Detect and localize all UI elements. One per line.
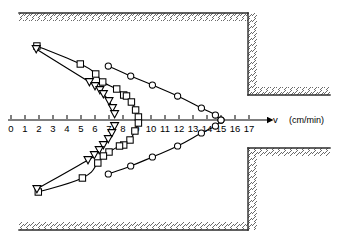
axis-tick-label: 6 (92, 123, 97, 134)
axis-tick-label: 4 (64, 123, 69, 134)
marker-square (93, 71, 99, 77)
marker-square (100, 153, 106, 159)
marker-circle (128, 163, 134, 169)
lower-shelf-hatch (248, 148, 330, 156)
marker-triangle-down (111, 123, 119, 130)
axis-symbol-v: v (273, 114, 278, 125)
marker-circle (149, 154, 155, 160)
marker-circle (105, 63, 111, 69)
right-lower-wall-hatch (248, 148, 257, 230)
axis-tick-label: 3 (50, 123, 55, 134)
axis-tick-label: 2 (36, 123, 41, 134)
marker-square (114, 86, 120, 92)
diagram-canvas: 01234567891011121314151617 v (cm/min) (0, 0, 337, 244)
bottom-wall-hatch (19, 222, 248, 230)
axis-tick-label: 11 (160, 123, 170, 134)
right-upper-wall-hatch (248, 13, 257, 95)
marker-circle (218, 117, 224, 123)
wall-hatching-group (19, 13, 330, 230)
axis-unit-label: (cm/min) (289, 115, 324, 125)
marker-square (100, 79, 106, 85)
axis-tick-label: 8 (120, 123, 125, 134)
marker-triangle-down (105, 98, 113, 105)
marker-circle (212, 112, 218, 118)
marker-circle (149, 82, 155, 88)
marker-square (132, 107, 138, 113)
data-markers-group (32, 43, 224, 195)
marker-square (95, 160, 101, 166)
wall-outline-group (19, 13, 330, 230)
velocity-profile-figure: 01234567891011121314151617 v (cm/min) (0, 0, 337, 244)
axis-tick-label: 5 (78, 123, 83, 134)
marker-triangle-down (111, 111, 119, 118)
marker-circle (198, 105, 204, 111)
marker-square (116, 143, 122, 149)
axis-tick-label: 16 (230, 123, 241, 134)
axis-tick-label: 10 (146, 123, 157, 134)
upper-shelf-hatch (248, 87, 330, 95)
marker-circle (105, 171, 111, 177)
axis-tick-label: 13 (188, 123, 199, 134)
marker-square (123, 93, 129, 99)
marker-circle (175, 93, 181, 99)
axis-group: 01234567891011121314151617 v (cm/min) (8, 114, 324, 134)
marker-square (79, 175, 85, 181)
marker-square (77, 61, 83, 67)
marker-triangle-down (84, 157, 92, 164)
marker-circle (128, 73, 134, 79)
axis-tick-label: 1 (22, 123, 27, 134)
marker-square (128, 99, 134, 105)
marker-circle (212, 123, 218, 129)
axis-tick-label: 12 (174, 123, 185, 134)
marker-square (132, 128, 138, 134)
marker-circle (198, 130, 204, 136)
axis-tick-label: 17 (244, 123, 255, 134)
top-wall-hatch (19, 13, 248, 21)
marker-square (135, 114, 141, 120)
marker-circle (175, 143, 181, 149)
axis-tick-label: 0 (8, 123, 13, 134)
marker-square (135, 120, 141, 126)
marker-square (127, 137, 133, 143)
